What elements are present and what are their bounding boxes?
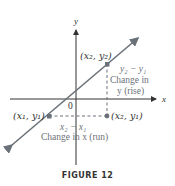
rise-expression: y₂ − y₁ xyxy=(119,64,146,74)
point-x1-y1 xyxy=(47,114,52,119)
rise-label-line1: Change in xyxy=(110,75,149,85)
point-x2-y2 xyxy=(105,62,110,67)
figure-caption: FIGURE 12 xyxy=(0,171,175,180)
origin-label: 0 xyxy=(68,101,73,111)
point-x1-y1-label: (x₁, y₁) xyxy=(13,110,45,121)
run-expression: x₂ − x₁ xyxy=(59,122,86,132)
y-axis-label: y xyxy=(73,16,78,26)
point-x2-y2-label: (x₂, y₂) xyxy=(80,50,112,61)
x-axis-label: x xyxy=(161,94,166,104)
rise-label-line2: y (rise) xyxy=(117,86,144,97)
slope-diagram: y x 0 (x₂, y₂) (x₁, y₁) (x₂, y₁) y₂ − y₁… xyxy=(0,0,175,186)
point-x2-y1 xyxy=(105,114,110,119)
run-label: Change in x (run) xyxy=(41,132,108,143)
point-x2-y1-label: (x₂, y₁) xyxy=(111,110,143,121)
